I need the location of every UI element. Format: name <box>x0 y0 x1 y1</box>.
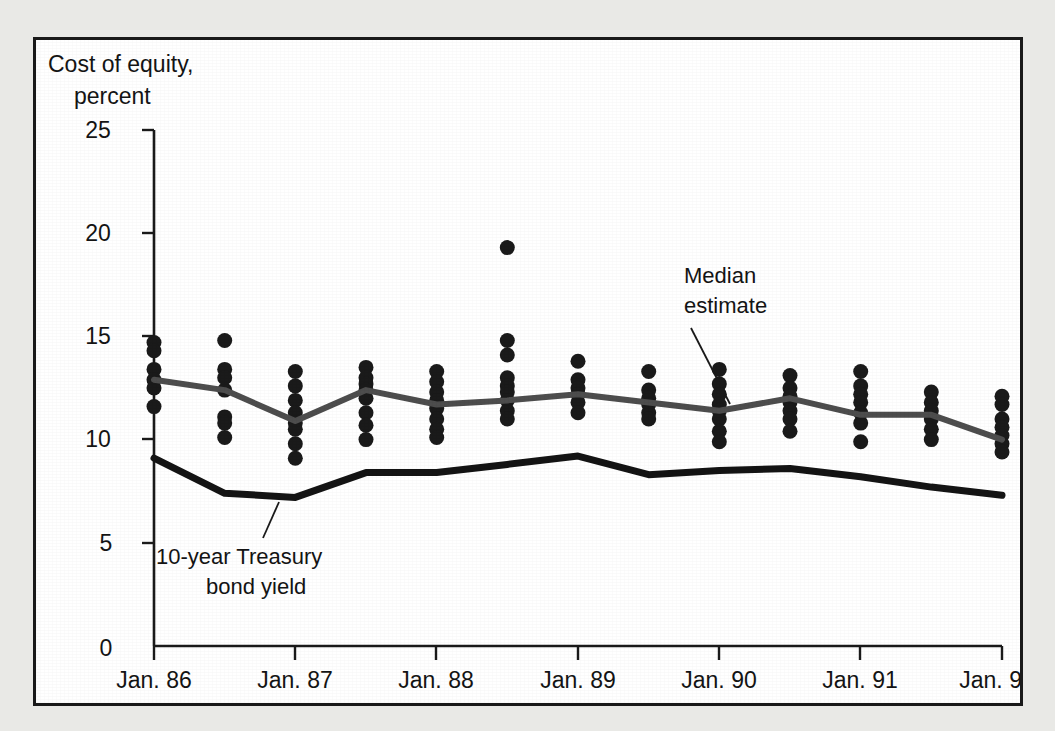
x-tick-label-jan92: Jan. 92 <box>959 667 1020 693</box>
treasury-yield-leader-line <box>263 502 279 538</box>
scatter-point <box>712 434 727 449</box>
scatter-point <box>853 416 868 431</box>
y-tick-label-0: 0 <box>100 635 113 661</box>
y-axis-title-line1: Cost of equity, <box>48 51 193 77</box>
y-tick-label-5: 5 <box>100 530 113 556</box>
y-axis-title-line2: percent <box>74 83 151 109</box>
scatter-point <box>500 412 515 427</box>
x-tick-marks <box>154 646 1002 660</box>
x-tick-label-jan87: Jan. 87 <box>257 667 332 693</box>
scatter-point <box>359 432 374 447</box>
y-tick-label-20: 20 <box>85 220 111 246</box>
x-tick-label-jan91: Jan. 91 <box>822 667 897 693</box>
scatter-point <box>500 240 515 255</box>
scatter-point <box>783 424 798 439</box>
treasury-yield-label-line2: bond yield <box>206 574 306 599</box>
scatter-point <box>924 432 939 447</box>
chart-canvas: Cost of equity, percent 25 20 15 10 5 0 <box>36 40 1020 703</box>
scatter-point <box>217 430 232 445</box>
scatter-point <box>288 451 303 466</box>
scatter-point <box>217 333 232 348</box>
treasury-yield-annotation: 10-year Treasury bond yield <box>156 502 322 599</box>
scatter-points-layer <box>147 240 1010 466</box>
scatter-point <box>288 364 303 379</box>
scatter-point <box>147 343 162 358</box>
scatter-point <box>641 364 656 379</box>
scatter-point <box>641 412 656 427</box>
scatter-point <box>500 348 515 363</box>
scatter-point <box>217 416 232 431</box>
median-estimate-label-line1: Median <box>684 263 756 288</box>
x-tick-label-jan90: Jan. 90 <box>681 667 756 693</box>
scatter-point <box>500 333 515 348</box>
scatter-point <box>853 364 868 379</box>
scatter-point <box>995 445 1010 460</box>
page-root: Cost of equity, percent 25 20 15 10 5 0 <box>0 0 1055 731</box>
scatter-point <box>571 405 586 420</box>
scatter-point <box>288 436 303 451</box>
y-tick-label-15: 15 <box>85 323 111 349</box>
scatter-point <box>359 418 374 433</box>
x-tick-label-jan88: Jan. 88 <box>398 667 473 693</box>
scatter-point <box>147 399 162 414</box>
scatter-point <box>288 422 303 437</box>
figure-frame: Cost of equity, percent 25 20 15 10 5 0 <box>33 37 1023 706</box>
scatter-point <box>995 397 1010 412</box>
x-tick-label-jan86: Jan. 86 <box>116 667 191 693</box>
y-tick-label-10: 10 <box>85 426 111 452</box>
treasury-yield-label-line1: 10-year Treasury <box>156 544 322 569</box>
scatter-point <box>429 430 444 445</box>
scatter-point <box>853 434 868 449</box>
y-tick-label-25: 25 <box>85 117 111 143</box>
scatter-point <box>288 378 303 393</box>
x-tick-label-jan89: Jan. 89 <box>540 667 615 693</box>
median-estimate-label-line2: estimate <box>684 293 767 318</box>
treasury-yield-line <box>154 456 1002 497</box>
scatter-point <box>571 354 586 369</box>
